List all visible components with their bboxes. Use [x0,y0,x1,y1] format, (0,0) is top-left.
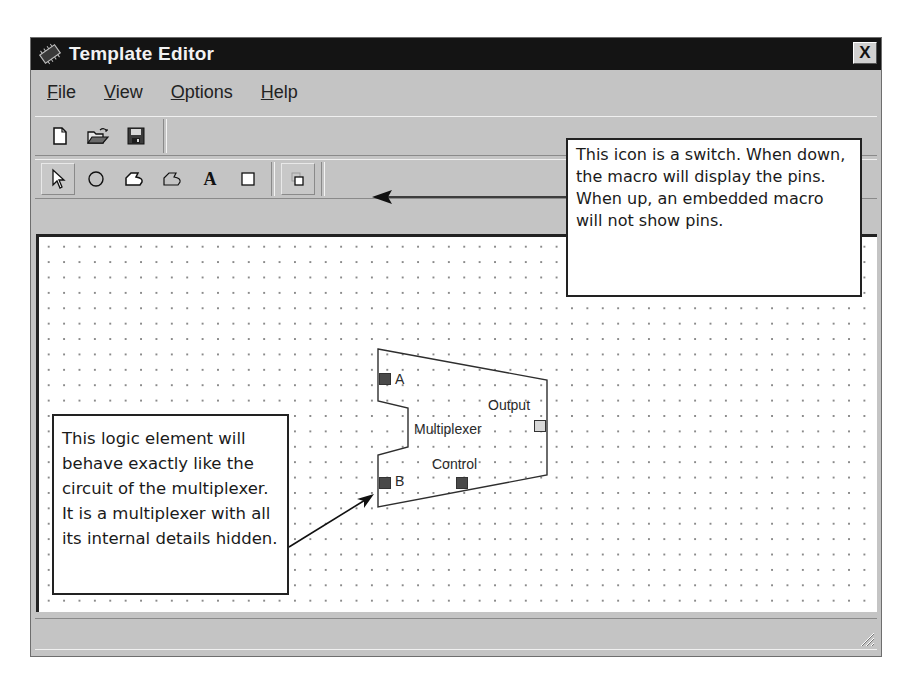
circle-icon [86,169,106,189]
pin-b[interactable] [379,477,391,489]
text-a-icon: A [204,169,217,190]
polygon-tool-button[interactable] [155,163,189,195]
close-button[interactable]: X [853,42,877,64]
filled-polygon-icon [123,169,145,189]
select-tool-button[interactable] [41,163,75,195]
toolbar-separator [271,162,275,196]
resize-grip-icon[interactable] [857,629,875,647]
element-name-label: Multiplexer [414,421,482,437]
pin-a-label: A [395,371,404,387]
arrow-cursor-icon [49,168,67,190]
rectangle-icon [239,170,257,188]
menu-file[interactable]: File [47,82,76,103]
filled-polygon-tool-button[interactable] [117,163,151,195]
window-title: Template Editor [69,43,214,65]
pin-output[interactable] [534,420,546,432]
element-callout: This logic element will behave exactly l… [52,414,289,595]
open-folder-icon [86,126,110,146]
save-button[interactable] [119,120,153,152]
toolbar-separator [163,119,167,153]
new-document-icon [51,126,69,146]
menu-help[interactable]: Help [261,82,298,103]
control-label: Control [432,456,477,472]
switch-callout-text: This icon is a switch. When down, the ma… [576,145,845,230]
pins-toggle-icon [289,170,307,188]
new-button[interactable] [43,120,77,152]
status-bar [35,618,877,650]
menu-options[interactable]: Options [171,82,233,103]
pin-b-label: B [395,473,404,489]
output-label: Output [488,397,530,413]
pin-a[interactable] [379,373,391,385]
element-callout-text: This logic element will behave exactly l… [62,429,278,548]
polygon-outline-icon [161,169,183,189]
text-tool-button[interactable]: A [193,163,227,195]
circle-tool-button[interactable] [79,163,113,195]
chip-icon [35,41,65,67]
pin-control[interactable] [456,477,468,489]
rectangle-tool-button[interactable] [231,163,265,195]
title-bar[interactable]: Template Editor X [31,38,881,70]
menu-bar: File View Options Help [31,72,881,112]
show-pins-switch-button[interactable] [281,163,315,195]
floppy-disk-icon [126,126,146,146]
open-button[interactable] [81,120,115,152]
switch-callout: This icon is a switch. When down, the ma… [566,138,862,297]
close-icon: X [859,43,870,63]
toolbar-separator [321,162,325,196]
menu-view[interactable]: View [104,82,143,103]
